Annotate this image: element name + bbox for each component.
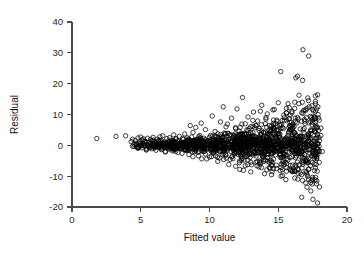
x-tick-label: 5 bbox=[138, 214, 143, 225]
x-tick-label: 15 bbox=[273, 214, 284, 225]
x-tick-label: 10 bbox=[204, 214, 215, 225]
scatter-plot-canvas: 05101520-20-10010203040Fitted valueResid… bbox=[0, 0, 364, 261]
y-axis-title: Residual bbox=[9, 95, 20, 134]
y-tick-label: -10 bbox=[49, 171, 63, 182]
y-tick-label: -20 bbox=[49, 201, 63, 212]
residual-plot-figure: 05101520-20-10010203040Fitted valueResid… bbox=[0, 0, 364, 261]
y-tick-label: 20 bbox=[52, 78, 63, 89]
y-tick-label: 0 bbox=[58, 140, 63, 151]
y-tick-label: 40 bbox=[52, 16, 63, 27]
y-tick-label: 30 bbox=[52, 47, 63, 58]
x-axis-title: Fitted value bbox=[184, 232, 236, 243]
y-tick-label: 10 bbox=[52, 109, 63, 120]
x-tick-label: 20 bbox=[342, 214, 353, 225]
x-tick-label: 0 bbox=[69, 214, 74, 225]
